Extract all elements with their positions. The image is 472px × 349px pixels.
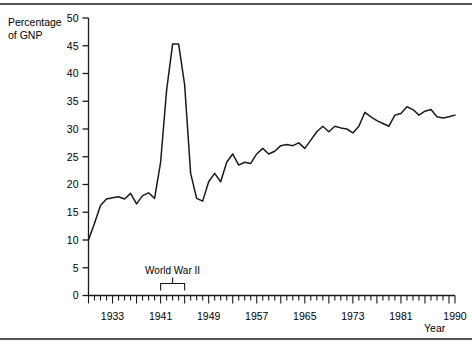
y-tick-label: 45	[67, 40, 79, 52]
x-tick-label: 1990	[443, 310, 467, 322]
y-tick-label: 20	[67, 178, 79, 190]
x-axis-ticks	[89, 296, 456, 304]
x-tick-label: 1949	[197, 310, 221, 322]
world-war-ii-annotation: World War II	[145, 265, 200, 291]
y-tick-label: 25	[67, 151, 79, 163]
x-tick-label: 1965	[293, 310, 317, 322]
y-axis-ticks: 05101520253035404550	[67, 12, 89, 302]
x-tick-label: 1933	[101, 310, 125, 322]
y-tick-label: 35	[67, 95, 79, 107]
y-tick-label: 0	[73, 289, 79, 301]
x-tick-label: 1957	[245, 310, 269, 322]
x-tick-label: 1973	[341, 310, 365, 322]
x-tick-label: 1981	[389, 310, 413, 322]
y-tick-label: 40	[67, 67, 79, 79]
chart-page: Percentageof GNP Year 051015202530354045…	[0, 0, 472, 349]
y-tick-label: 10	[67, 234, 79, 246]
annotation-label: World War II	[145, 265, 200, 276]
data-series-line	[89, 44, 456, 240]
line-chart: 05101520253035404550 1933194119491957196…	[0, 0, 472, 349]
y-tick-label: 30	[67, 123, 79, 135]
y-tick-label: 15	[67, 206, 79, 218]
y-tick-label: 5	[73, 262, 79, 274]
x-axis-tick-labels: 19331941194919571965197319811990	[101, 310, 467, 322]
y-tick-label: 50	[67, 12, 79, 24]
x-tick-label: 1941	[149, 310, 173, 322]
